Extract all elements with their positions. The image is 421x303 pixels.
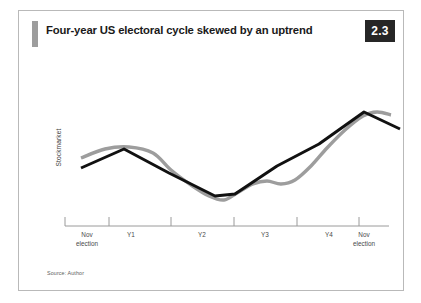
x-axis-tick-label-line: election	[353, 240, 375, 249]
x-axis-tick-label: Novelection	[353, 231, 375, 248]
figure-title-bar: Four-year US electoral cycle skewed by a…	[19, 20, 403, 48]
page-title: Four-year US electoral cycle skewed by a…	[46, 24, 312, 36]
x-axis-tick-label-line: Y4	[325, 231, 333, 240]
chart-plot-area: Stockmarket NovelectionY1Y2Y3Y4Novelecti…	[19, 48, 405, 253]
x-axis-tick-label-line: Nov	[353, 231, 375, 240]
x-axis-tick-label-line: Y2	[198, 231, 206, 240]
x-axis-tick-label-line: Y3	[261, 231, 269, 240]
x-axis-tick-label-line: election	[76, 240, 98, 249]
series-layer	[81, 112, 400, 200]
figure-number-badge: 2.3	[365, 20, 395, 42]
title-accent-bar	[32, 21, 38, 47]
x-axis-tick-label: Y2	[198, 231, 206, 240]
x-axis-tick-label-line: Y1	[127, 231, 135, 240]
x-axis-tick-label: Y3	[261, 231, 269, 240]
chart-canvas	[19, 48, 405, 253]
x-axis-tick-label: Novelection	[76, 231, 98, 248]
x-axis-tick-label: Y1	[127, 231, 135, 240]
source-note: Source: Author	[47, 270, 84, 276]
x-axis-tick-label: Y4	[325, 231, 333, 240]
x-axis-layer	[65, 217, 389, 226]
figure-panel: Four-year US electoral cycle skewed by a…	[18, 10, 404, 291]
x-axis-tick-label-line: Nov	[76, 231, 98, 240]
